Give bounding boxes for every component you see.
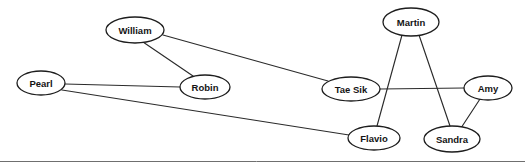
node-label-sandra: Sandra [436,134,469,145]
node-william[interactable]: William [106,17,164,43]
node-label-taesik: Tae Sik [335,84,368,95]
node-robin[interactable]: Robin [180,75,230,99]
edge-william-robin[interactable] [143,42,193,76]
node-label-flavio: Flavio [360,133,388,144]
node-martin[interactable]: Martin [383,8,439,36]
node-label-william: William [118,25,151,36]
edge-martin-sandra[interactable] [419,35,450,126]
node-amy[interactable]: Amy [464,76,512,100]
node-label-pearl: Pearl [29,78,52,89]
nodes-layer: PearlWilliamRobinTae SikMartinAmyFlavioS… [17,8,512,152]
network-diagram-svg: PearlWilliamRobinTae SikMartinAmyFlavioS… [0,0,525,162]
node-flavio[interactable]: Flavio [348,126,400,150]
node-sandra[interactable]: Sandra [424,126,480,152]
network-diagram-canvas: PearlWilliamRobinTae SikMartinAmyFlavioS… [0,0,525,162]
edge-william-taesik[interactable] [163,35,328,81]
node-label-martin: Martin [397,17,426,28]
node-label-amy: Amy [478,83,499,94]
node-label-robin: Robin [192,82,219,93]
edge-taesik-amy[interactable] [380,88,464,89]
edge-amy-sandra[interactable] [461,99,480,128]
node-pearl[interactable]: Pearl [17,71,65,95]
edge-martin-flavio[interactable] [377,35,402,126]
edge-pearl-robin[interactable] [65,84,180,87]
edges-layer [62,35,480,135]
node-taesik[interactable]: Tae Sik [322,77,380,101]
